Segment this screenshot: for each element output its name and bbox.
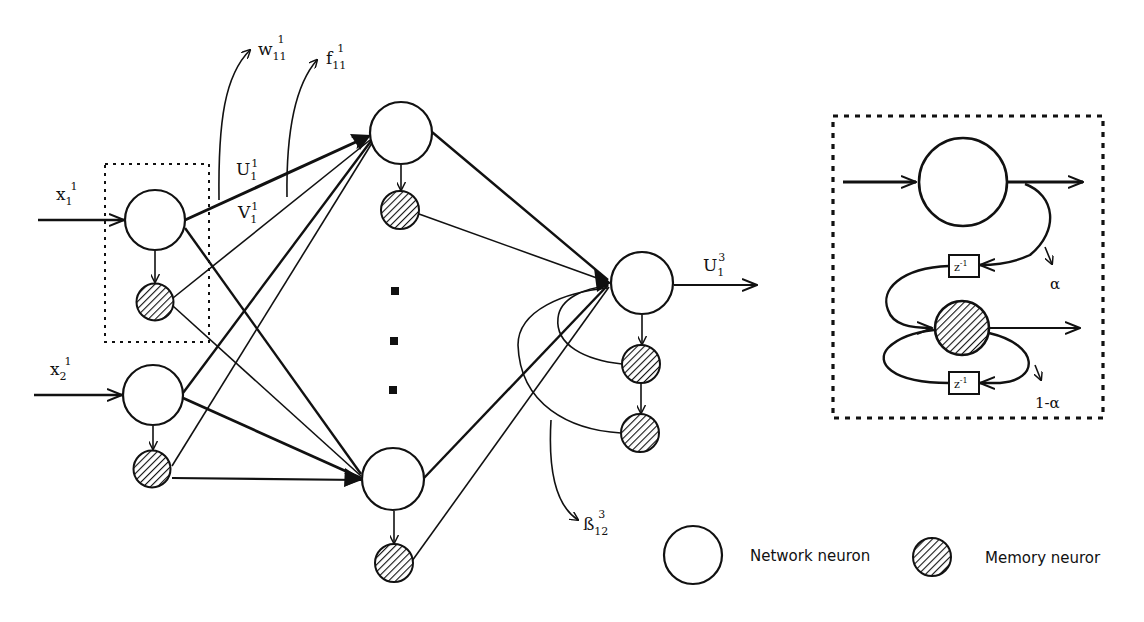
legend-network-neuron-label: Network neuron bbox=[750, 547, 870, 565]
legend-memory-neuron-label: Memory neuror bbox=[985, 549, 1101, 567]
input-neuron-2 bbox=[123, 365, 183, 425]
beta-curve bbox=[550, 420, 578, 520]
hidden-memory-neuron-top bbox=[381, 191, 419, 229]
input-memory-neuron-2 bbox=[134, 451, 171, 488]
legend-network-neuron-symbol bbox=[664, 526, 722, 584]
legend-memory-neuron-symbol bbox=[913, 538, 951, 576]
output-label-U: U13 bbox=[703, 251, 725, 279]
connection-hm1-out bbox=[419, 214, 608, 282]
input-neuron-1 bbox=[125, 190, 185, 250]
connection-U bbox=[185, 136, 369, 220]
weight-label-V: V11 bbox=[237, 200, 258, 226]
weight-label-w: w111 bbox=[258, 33, 287, 63]
connection-m1-bottom bbox=[173, 306, 361, 476]
connection-m2-top bbox=[172, 143, 372, 466]
inset-memory-neuron bbox=[935, 301, 989, 355]
hidden-neuron-bottom bbox=[362, 448, 424, 510]
ellipsis-dot-2 bbox=[390, 337, 398, 345]
connection-m2-bottom bbox=[172, 478, 361, 480]
connection-hm2-out bbox=[412, 287, 609, 561]
feedback-curve-m1 bbox=[558, 286, 622, 364]
ellipsis-dot-1 bbox=[391, 287, 399, 295]
memory-neuron-network-diagram: x11 x21 w111 f111 U11 V11 ß123 bbox=[0, 0, 1144, 622]
memory-neuron-detail-inset: α z-1 1-α z-1 bbox=[833, 116, 1103, 418]
hidden-to-output-connections bbox=[412, 132, 609, 561]
hidden-memory-neuron-bottom bbox=[375, 544, 413, 582]
weight-curve-f bbox=[287, 60, 317, 197]
output-memory-neuron-2 bbox=[621, 414, 659, 452]
one-minus-alpha-label: 1-α bbox=[1035, 394, 1060, 412]
weight-label-U: U11 bbox=[236, 157, 258, 183]
alpha-tick-arrow bbox=[1045, 247, 1052, 264]
input-label-x2: x21 bbox=[50, 355, 72, 383]
weight-label-beta: ß123 bbox=[583, 508, 608, 538]
connection-h1-out bbox=[432, 132, 608, 280]
output-memory-neuron-1 bbox=[622, 345, 660, 383]
input-to-hidden-connections bbox=[172, 136, 372, 480]
input-label-x1: x11 bbox=[56, 180, 78, 208]
legend: Network neuron Memory neuror bbox=[664, 526, 1101, 584]
inset-network-neuron bbox=[919, 138, 1007, 226]
connection-h2-out bbox=[424, 285, 608, 478]
output-neuron bbox=[611, 252, 673, 314]
one-minus-alpha-tick-arrow bbox=[1035, 365, 1041, 380]
feedback-curve-m2 bbox=[518, 288, 621, 433]
ellipsis-dot-3 bbox=[389, 386, 397, 394]
alpha-label: α bbox=[1050, 275, 1060, 293]
input-memory-neuron-1 bbox=[137, 284, 174, 321]
hidden-neuron-top bbox=[370, 102, 432, 164]
weight-label-f: f111 bbox=[326, 42, 346, 72]
